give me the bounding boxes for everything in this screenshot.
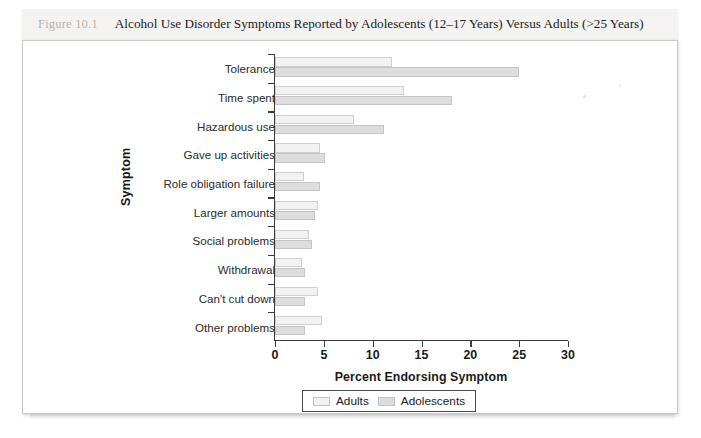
y-axis-tick-label: Withdrawal	[218, 263, 275, 276]
legend-item-adolescents: Adolescents	[378, 394, 465, 408]
y-axis-tick-label: Other problems	[195, 320, 275, 333]
x-axis-tick	[275, 341, 276, 347]
legend-swatch-adults	[313, 397, 330, 406]
bar-adolescents[interactable]	[275, 125, 384, 134]
y-axis-tick	[268, 312, 274, 313]
page-shadow	[30, 414, 675, 420]
bar-adults[interactable]	[275, 143, 320, 152]
bar-adolescents[interactable]	[275, 67, 519, 76]
x-axis-tick-label: 10	[366, 348, 380, 362]
y-axis-tick	[268, 255, 274, 256]
bar-adolescents[interactable]	[275, 96, 452, 105]
x-axis-tick	[422, 341, 423, 347]
y-axis-tick-label: Can't cut down	[199, 291, 275, 304]
x-axis-tick	[470, 341, 471, 347]
bar-adolescents[interactable]	[275, 211, 315, 220]
x-axis-tick-label: 25	[512, 348, 526, 362]
bar-adolescents[interactable]	[275, 153, 325, 162]
y-axis-tick	[268, 83, 274, 84]
y-axis-tick	[268, 140, 274, 141]
bar-row: Gave up activities	[23, 140, 677, 169]
y-axis-tick-label: Tolerance	[225, 62, 275, 75]
figure-caption-band: Figure 10.1 Alcohol Use Disorder Symptom…	[22, 9, 678, 39]
bar-row: Other problems	[23, 312, 677, 341]
bar-adolescents[interactable]	[275, 297, 305, 306]
bar-row: Can't cut down	[23, 284, 677, 313]
legend-label-adults: Adults	[336, 394, 369, 408]
y-axis-tick-label: Gave up activities	[183, 148, 275, 161]
bar-row: Tolerance	[23, 54, 677, 83]
bar-adults[interactable]	[275, 230, 309, 239]
chart-legend: Adults Adolescents	[302, 390, 476, 412]
x-axis-ticks: 051015202530	[23, 341, 677, 371]
x-axis-tick-label: 15	[415, 348, 429, 362]
x-axis-tick-label: 20	[463, 348, 477, 362]
y-axis-tick	[268, 169, 274, 170]
scan-speck	[583, 95, 586, 98]
x-axis-tick-label: 5	[320, 348, 327, 362]
figure-title: Alcohol Use Disorder Symptoms Reported b…	[115, 16, 644, 32]
bar-adults[interactable]	[275, 172, 304, 181]
legend-item-adults: Adults	[313, 394, 369, 408]
y-axis-tick	[268, 111, 274, 112]
y-axis-tick-label: Hazardous use	[197, 119, 275, 132]
bar-row: Role obligation failure	[23, 169, 677, 198]
y-axis-tick-label: Social problems	[193, 234, 275, 247]
legend-swatch-adolescents	[378, 397, 395, 406]
x-axis-tick	[568, 341, 569, 347]
x-axis-title: Percent Endorsing Symptom	[274, 370, 568, 384]
bar-adolescents[interactable]	[275, 326, 305, 335]
bar-rows: ToleranceTime spentHazardous useGave up …	[23, 54, 677, 341]
legend-label-adolescents: Adolescents	[401, 394, 465, 408]
bar-adolescents[interactable]	[275, 240, 312, 249]
bar-adults[interactable]	[275, 201, 318, 210]
bar-adults[interactable]	[275, 86, 404, 95]
x-axis-tick	[373, 341, 374, 347]
y-axis-tick	[268, 226, 274, 227]
bar-row: Time spent	[23, 83, 677, 112]
y-axis-tick-label: Time spent	[218, 91, 275, 104]
bar-row: Larger amounts	[23, 197, 677, 226]
y-axis-tick	[268, 54, 274, 55]
x-axis-tick-label: 0	[272, 348, 279, 362]
scan-speck	[619, 85, 621, 87]
figure-page: Figure 10.1 Alcohol Use Disorder Symptom…	[0, 0, 701, 438]
x-axis-tick	[324, 341, 325, 347]
bar-chart: Symptom ToleranceTime spentHazardous use…	[23, 41, 677, 413]
bar-adults[interactable]	[275, 316, 322, 325]
y-axis-tick-label: Larger amounts	[194, 205, 275, 218]
y-axis-tick	[268, 284, 274, 285]
y-axis-tick	[268, 197, 274, 198]
bar-adolescents[interactable]	[275, 268, 305, 277]
figure-number: Figure 10.1	[38, 17, 98, 32]
x-axis-tick-label: 30	[561, 348, 575, 362]
bar-adults[interactable]	[275, 258, 302, 267]
chart-frame: Symptom ToleranceTime spentHazardous use…	[22, 40, 678, 414]
bar-adults[interactable]	[275, 57, 392, 66]
bar-adults[interactable]	[275, 115, 354, 124]
bar-row: Withdrawal	[23, 255, 677, 284]
bar-adolescents[interactable]	[275, 182, 320, 191]
bar-row: Social problems	[23, 226, 677, 255]
x-axis-tick	[519, 341, 520, 347]
y-axis-tick-label: Role obligation failure	[164, 177, 276, 190]
bar-adults[interactable]	[275, 287, 318, 296]
bar-row: Hazardous use	[23, 111, 677, 140]
